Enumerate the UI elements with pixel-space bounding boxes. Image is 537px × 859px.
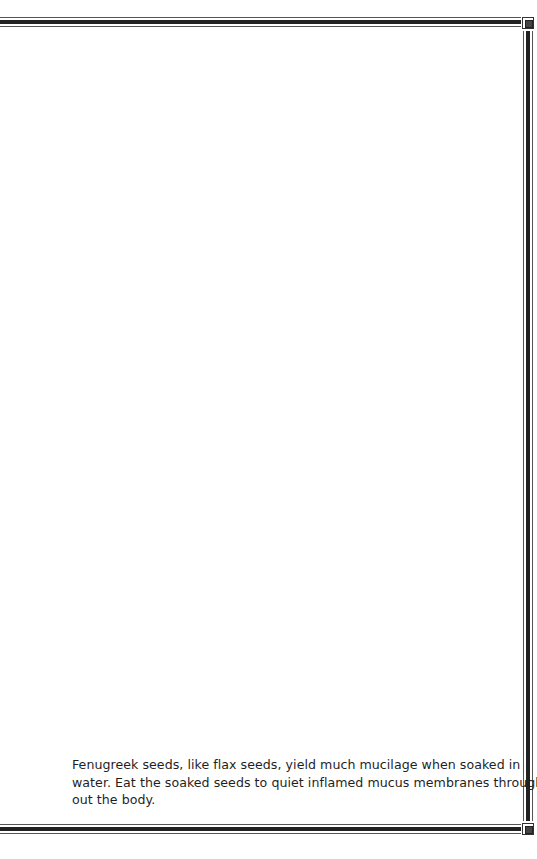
top-border-rule — [0, 17, 521, 28]
bottom-right-corner-ornament — [522, 823, 534, 835]
paragraph-line: water. Eat the soaked seeds to quiet inf… — [72, 774, 512, 792]
right-border-thick-line — [526, 31, 530, 821]
bottom-border-rule — [0, 824, 521, 835]
body-paragraph: Fenugreek seeds, like flax seeds, yield … — [72, 756, 512, 809]
paragraph-line: out the body. — [72, 791, 512, 809]
top-border-thick-line — [0, 20, 521, 24]
right-border-rule — [522, 31, 534, 821]
corner-square-icon — [525, 826, 533, 834]
corner-square-icon — [525, 20, 533, 28]
bottom-border-thin-line-outer — [0, 824, 521, 825]
right-border-thin-line-outer — [523, 31, 524, 821]
right-border-thin-line-inner — [532, 31, 533, 821]
top-border-thin-line-outer — [0, 17, 521, 18]
document-page: Fenugreek seeds, like flax seeds, yield … — [0, 0, 537, 859]
top-border-thin-line-inner — [0, 26, 521, 27]
paragraph-line: Fenugreek seeds, like flax seeds, yield … — [72, 756, 512, 774]
top-right-corner-ornament — [522, 17, 534, 29]
bottom-border-thin-line-inner — [0, 833, 521, 834]
bottom-border-thick-line — [0, 827, 521, 831]
